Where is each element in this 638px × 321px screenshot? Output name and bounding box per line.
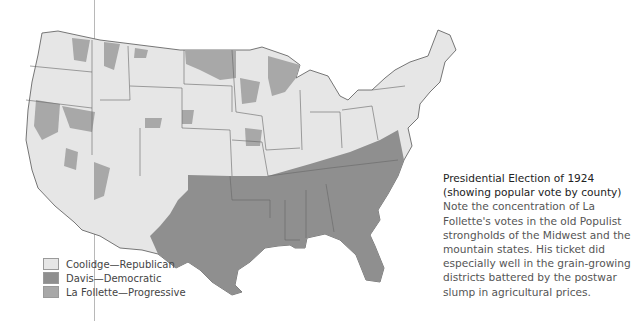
legend-item-la-follette: La Follette—Progressive xyxy=(43,285,186,299)
legend-item-davis: Davis—Democratic xyxy=(43,271,186,285)
la-follette-swatch xyxy=(43,286,59,298)
map-caption: Presidential Election of 1924 (showing p… xyxy=(443,171,638,299)
caption-description: Note the concentration of La Follette's … xyxy=(443,199,638,298)
caption-subtitle: (showing popular vote by county) xyxy=(443,185,638,199)
legend-label: La Follette—Progressive xyxy=(66,287,186,298)
caption-title: Presidential Election of 1924 xyxy=(443,171,638,185)
legend-label: Coolidge—Republican xyxy=(66,259,175,270)
davis-swatch xyxy=(43,272,59,284)
coolidge-swatch xyxy=(43,258,59,270)
legend-item-coolidge: Coolidge—Republican xyxy=(43,257,186,271)
map-legend: Coolidge—Republican Davis—Democratic La … xyxy=(43,257,186,299)
legend-label: Davis—Democratic xyxy=(66,273,161,284)
